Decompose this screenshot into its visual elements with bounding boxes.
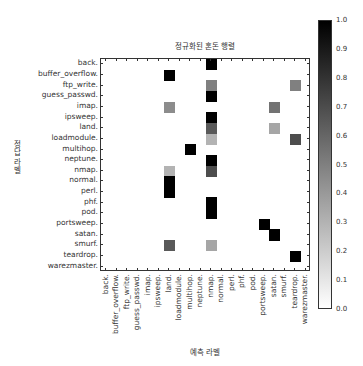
heatmap-cell: [269, 102, 280, 113]
heatmap-cell: [164, 187, 175, 198]
y-tick-label: back.: [78, 59, 98, 67]
y-tick: [100, 191, 103, 192]
x-tick-label: imap.: [143, 274, 153, 354]
y-tick: [100, 234, 103, 235]
heatmap-cell: [206, 112, 217, 123]
x-tick: [242, 268, 243, 271]
x-tick: [200, 268, 201, 271]
x-tick: [126, 268, 127, 271]
y-tick-label: smurf.: [74, 240, 98, 248]
x-tick: [179, 58, 180, 61]
heatmap-cell: [269, 123, 280, 134]
heatmap-cell: [206, 197, 217, 208]
x-tick-label: loadmodule.: [174, 274, 184, 354]
heatmap-cell: [259, 219, 270, 230]
y-tick-label: imap.: [77, 102, 98, 110]
x-tick: [158, 58, 159, 61]
y-tick: [100, 127, 103, 128]
x-tick: [210, 268, 211, 271]
x-tick: [168, 268, 169, 271]
y-tick: [307, 191, 310, 192]
x-tick: [284, 58, 285, 61]
y-tick: [307, 85, 310, 86]
x-tick-label: warezmaster.: [300, 274, 310, 354]
colorbar-tick-label: 1.0: [336, 16, 347, 24]
colorbar: [318, 20, 332, 309]
y-tick: [307, 234, 310, 235]
y-tick: [100, 255, 103, 256]
colorbar-tick-label: 0.9: [336, 45, 347, 53]
x-tick: [294, 268, 295, 271]
x-tick-label: smurf.: [279, 274, 289, 354]
y-tick: [100, 212, 103, 213]
x-tick: [105, 268, 106, 271]
y-tick: [100, 266, 103, 267]
x-tick-label: guess_passwd.: [132, 274, 142, 354]
y-tick: [307, 212, 310, 213]
y-tick: [307, 74, 310, 75]
x-tick-label: back.: [101, 274, 111, 354]
x-tick: [158, 268, 159, 271]
x-tick: [147, 58, 148, 61]
y-tick: [307, 266, 310, 267]
y-axis-title: 정답 라벨: [10, 140, 21, 174]
y-tick: [100, 95, 103, 96]
y-tick-label: satan.: [75, 230, 98, 238]
y-tick: [307, 170, 310, 171]
y-tick-label: buffer_overflow.: [38, 70, 98, 78]
x-tick-label: neptune.: [195, 274, 205, 354]
x-tick-label: pod.: [248, 274, 258, 354]
y-tick: [100, 159, 103, 160]
y-tick: [100, 180, 103, 181]
y-tick-label: normal.: [69, 176, 98, 184]
heatmap-cell: [164, 70, 175, 81]
x-tick: [126, 58, 127, 61]
header-strip: [0, 0, 100, 6]
x-tick: [252, 58, 253, 61]
x-tick: [189, 58, 190, 61]
x-tick-label: satan.: [269, 274, 279, 354]
y-tick-label: multihop.: [62, 145, 98, 153]
y-tick-label: nmap.: [74, 166, 98, 174]
x-tick: [263, 268, 264, 271]
x-tick-label: teardrop.: [290, 274, 300, 354]
x-tick: [105, 58, 106, 61]
y-tick-label: perl.: [81, 187, 98, 195]
heatmap-plot-area: [100, 58, 310, 271]
y-tick: [307, 149, 310, 150]
y-tick-label: phf.: [84, 198, 98, 206]
x-tick-label: phf.: [237, 274, 247, 354]
x-axis-title: 예측 라벨: [100, 346, 310, 357]
colorbar-tick-label: 0.6: [336, 132, 347, 140]
x-tick: [231, 268, 232, 271]
colorbar-tick-label: 0.1: [336, 276, 347, 284]
heatmap-cell: [206, 134, 217, 145]
x-tick: [273, 268, 274, 271]
x-tick: [179, 268, 180, 271]
x-tick: [252, 268, 253, 271]
heatmap-cell: [164, 176, 175, 187]
y-tick: [307, 138, 310, 139]
colorbar-tick-label: 0.4: [336, 189, 347, 197]
y-tick-label: portsweep.: [56, 219, 98, 227]
heatmap-cell: [206, 240, 217, 251]
y-tick-label: pod.: [82, 208, 99, 216]
y-tick: [307, 117, 310, 118]
x-tick-label: nmap.: [206, 274, 216, 354]
y-tick: [100, 85, 103, 86]
x-tick: [294, 58, 295, 61]
y-tick: [307, 202, 310, 203]
x-tick: [189, 268, 190, 271]
y-tick: [307, 180, 310, 181]
heatmap-cell: [206, 123, 217, 134]
x-tick-label: perl.: [227, 274, 237, 354]
heatmap-cell: [206, 155, 217, 166]
x-tick: [116, 268, 117, 271]
x-tick-label: land.: [164, 274, 174, 354]
x-tick: [221, 268, 222, 271]
x-tick: [263, 58, 264, 61]
y-tick: [307, 255, 310, 256]
y-tick-label: loadmodule.: [51, 134, 98, 142]
x-tick-label: multihop.: [185, 274, 195, 354]
y-tick: [307, 127, 310, 128]
